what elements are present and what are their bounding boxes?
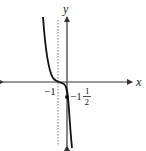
y-intercept-point	[65, 95, 69, 99]
x-axis-label: x	[135, 75, 142, 89]
x-intercept-label: −1	[44, 85, 56, 97]
y-intercept-fraction-denominator: 2	[85, 97, 90, 107]
y-axis-label: y	[62, 2, 69, 16]
y-intercept-fraction-numerator: 1	[85, 86, 90, 96]
y-intercept-whole-label: −1	[70, 90, 82, 102]
graph-canvas: x y −1 −1 1 2	[0, 0, 146, 151]
